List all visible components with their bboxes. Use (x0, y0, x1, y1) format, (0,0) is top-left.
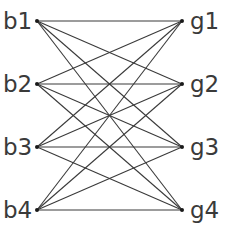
node-b2 (35, 82, 39, 86)
label-g1: g1 (190, 8, 219, 34)
label-b3: b3 (3, 134, 32, 160)
node-g2 (180, 82, 184, 86)
node-g4 (180, 208, 184, 212)
node-b3 (35, 145, 39, 149)
node-g1 (180, 19, 184, 23)
bipartite-graph: b1b2b3b4g1g2g3g4 (0, 0, 226, 232)
edges (37, 21, 182, 210)
node-g3 (180, 145, 184, 149)
node-b1 (35, 19, 39, 23)
label-g4: g4 (190, 197, 219, 223)
labels: b1b2b3b4g1g2g3g4 (3, 8, 219, 223)
node-b4 (35, 208, 39, 212)
label-b2: b2 (3, 71, 32, 97)
label-g3: g3 (190, 134, 219, 160)
label-g2: g2 (190, 71, 219, 97)
label-b4: b4 (3, 197, 32, 223)
label-b1: b1 (3, 8, 32, 34)
